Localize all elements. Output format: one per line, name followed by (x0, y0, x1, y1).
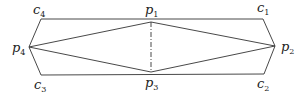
label-p3: p3 (145, 75, 158, 92)
hexagon-diagram: c4 p1 c1 p4 p2 c3 p3 c2 (0, 0, 305, 95)
edge-p4-p1 (29, 22, 151, 47)
label-c2: c2 (257, 76, 269, 93)
label-c1: c1 (257, 0, 269, 17)
label-p2: p2 (281, 39, 294, 56)
label-p4: p4 (12, 40, 25, 57)
edge-c1-p2 (263, 19, 275, 46)
label-c3: c3 (34, 77, 46, 94)
edge-p2-p3 (151, 46, 275, 72)
edge-c3-p4 (29, 47, 41, 75)
labels: c4 p1 c1 p4 p2 c3 p3 c2 (12, 0, 294, 94)
label-p1: p1 (145, 2, 158, 19)
label-c4: c4 (33, 2, 45, 19)
inner-rhombus (29, 22, 275, 72)
edge-p2-c2 (264, 46, 275, 74)
edge-p3-p4 (29, 47, 151, 72)
outer-hexagon (29, 19, 275, 75)
edge-p1-p2 (151, 22, 275, 46)
edge-p4-c4 (29, 19, 41, 47)
